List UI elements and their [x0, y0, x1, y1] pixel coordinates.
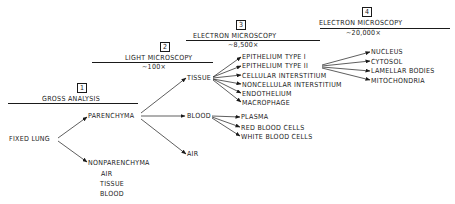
connector-arrows: [0, 0, 455, 204]
